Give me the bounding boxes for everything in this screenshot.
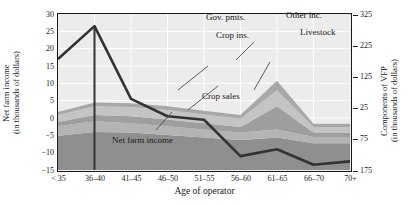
right-tickmark (353, 171, 358, 172)
left-axis-title-line2: (in thousands of dollars) (11, 52, 21, 135)
right-tickmark (353, 15, 358, 16)
right-tick-label: 125 (360, 72, 384, 81)
right-axis-title-line2: (in thousands of dollars) (389, 60, 399, 143)
left-tick-label: 30 (30, 10, 54, 19)
left-tick-label: 25 (30, 27, 54, 36)
left-axis-title: Net farm income(in thousands of dollars) (1, 18, 21, 168)
right-tickmark (353, 46, 358, 47)
left-axis-title-line1: Net farm income (1, 64, 11, 122)
right-tick-label: 25 (360, 103, 384, 112)
left-tick-label: −10 (30, 148, 54, 157)
left-tick-label: 10 (30, 79, 54, 88)
left-tick-label: 15 (30, 62, 54, 71)
annotation-crop-sales: Crop sales (202, 91, 240, 101)
right-tick-label: 325 (360, 10, 384, 19)
annotation-net-farm-income: Net farm income (112, 135, 173, 145)
leader-other-inc (236, 42, 254, 60)
annotation-gov-pmts: Gov. pmts. (206, 12, 245, 22)
right-tickmark (353, 139, 358, 140)
annotation-other-inc: Other inc. (286, 10, 322, 20)
x-tick-label: 70+ (329, 174, 373, 183)
chart-figure: Net farm income(in thousands of dollars)… (0, 0, 409, 204)
left-tick-label: −5 (30, 131, 54, 140)
left-tick-label: 20 (30, 44, 54, 53)
annotation-livestock: Livestock (300, 27, 336, 37)
annotation-crop-ins: Crop ins. (216, 30, 249, 40)
left-tick-label: 5 (30, 96, 54, 105)
right-tick-label: 225 (360, 41, 384, 50)
x-axis-title: Age of operator (0, 186, 409, 196)
right-tickmark (353, 77, 358, 78)
right-tick-label: 75 (360, 134, 384, 143)
right-tickmark (353, 108, 358, 109)
left-tick-label: 0 (30, 114, 54, 123)
